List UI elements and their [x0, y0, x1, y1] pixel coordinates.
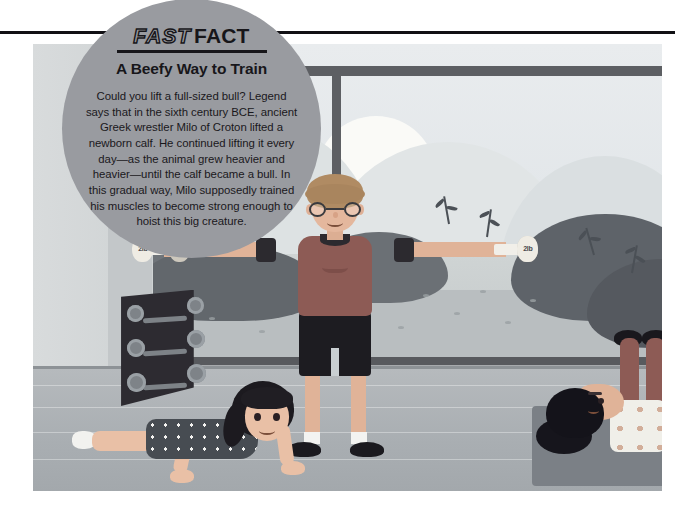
situp-brow — [588, 392, 602, 395]
fast-fact-kicker: FASTFACT — [82, 25, 301, 46]
fast-fact-underline — [117, 50, 267, 53]
dumbbell-plate-outer: 2lb — [517, 236, 538, 262]
girl-hair-fringe — [241, 387, 293, 409]
boy-right-sleeve — [394, 238, 414, 262]
girl-right-eye — [273, 413, 280, 421]
kicker-fast-word: FAST — [133, 24, 194, 47]
situp-eye — [598, 398, 604, 404]
girl-left-eye — [254, 413, 261, 421]
person-doing-sit-ups — [536, 366, 662, 486]
rack-weight-plate — [187, 297, 204, 314]
rack-weight-plate — [127, 373, 146, 392]
boy-shirt — [298, 236, 372, 316]
boy-smile — [327, 219, 343, 227]
girl-back-hand — [170, 469, 194, 483]
girl-smile — [259, 427, 275, 435]
glasses-bridge — [326, 208, 344, 210]
boy-hair-fringe — [305, 184, 365, 204]
kicker-fact-word: FACT — [194, 24, 250, 47]
glasses-left-lens — [309, 202, 326, 217]
boy-shorts — [299, 310, 371, 376]
pebble-shape — [530, 299, 536, 302]
glasses-right-lens — [344, 202, 361, 217]
dumbbell-right: 2lb — [480, 234, 538, 264]
boy-nose — [333, 212, 338, 218]
boy-shirt-chevron — [322, 260, 348, 273]
dumbbell-weight-label: 2lb — [518, 245, 538, 252]
pebble-shape — [209, 317, 215, 320]
fast-fact-callout: FASTFACT A Beefy Way to Train Could you … — [62, 0, 321, 258]
fast-fact-body-text: Could you lift a full-sized bull? Legend… — [82, 89, 301, 230]
boy-left-sleeve — [256, 238, 276, 262]
girl-front-arm — [276, 424, 295, 466]
girl-front-hand — [281, 461, 305, 475]
page-root: 2lb 2lb — [0, 0, 675, 514]
pebble-shape — [505, 321, 511, 324]
pebble-shape — [480, 290, 486, 293]
situp-mouth — [588, 408, 599, 414]
fast-fact-title: A Beefy Way to Train — [82, 60, 301, 78]
girl-doing-push-up — [146, 375, 356, 480]
